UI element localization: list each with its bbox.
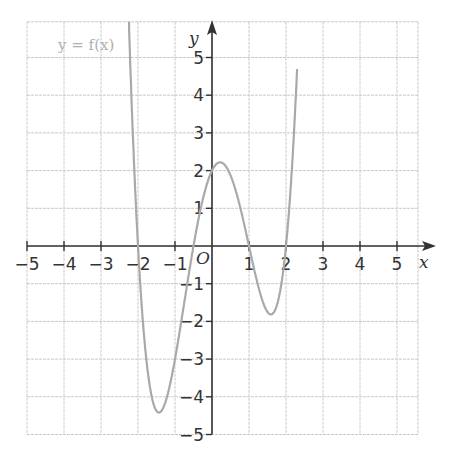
x-tick-label: −5 [14, 254, 39, 274]
y-tick-label: −4 [179, 387, 204, 407]
x-tick-label: −1 [162, 254, 187, 274]
grid-lines [27, 22, 418, 435]
y-axis-label: y [188, 28, 199, 48]
x-tick-label: −3 [88, 254, 113, 274]
y-tick-label: 3 [193, 123, 204, 143]
y-tick-label: 2 [193, 161, 204, 181]
x-tick-label: −4 [51, 254, 76, 274]
x-axis-label: x [419, 252, 429, 272]
y-tick-label: −3 [179, 349, 204, 369]
function-curve [129, 22, 297, 413]
x-tick-label: 5 [392, 254, 403, 274]
y-tick-label: −5 [179, 425, 204, 445]
function-graph: −5−4−3−2−112345−5−4−3−2−112345 y = f(x) … [0, 0, 449, 454]
y-tick-label: −1 [179, 274, 204, 294]
y-tick-label: 4 [193, 85, 204, 105]
y-tick-label: 5 [193, 48, 204, 68]
function-label: y = f(x) [57, 36, 114, 54]
x-tick-label: 3 [318, 254, 329, 274]
origin-label: O [196, 248, 210, 268]
x-tick-label: 4 [355, 254, 366, 274]
